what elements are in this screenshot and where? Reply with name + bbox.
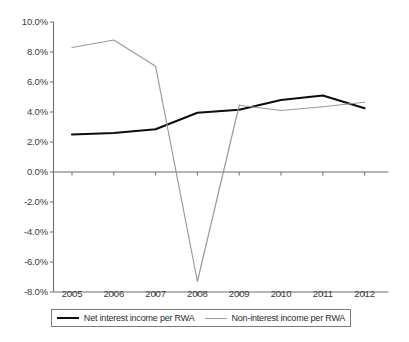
plot-canvas: [0, 0, 409, 305]
y-tick-label-3: 4.0%: [2, 107, 48, 117]
y-tick-label-5: 0.0%: [2, 167, 48, 177]
series-line-net-interest-income: [72, 96, 365, 135]
legend-entry-net-interest-income: Net interest income per RWA: [57, 313, 195, 323]
y-axis-tick-labels: 10.0%8.0%6.0%4.0%2.0%0.0%-2.0%-4.0%-6.0%…: [0, 0, 48, 305]
chart-legend: Net interest income per RWA Non-interest…: [51, 309, 351, 327]
x-tick-label-2009: 2009: [219, 288, 259, 300]
legend-line-icon-non: [205, 318, 227, 319]
y-tick-label-1: 8.0%: [2, 47, 48, 57]
legend-entry-non-interest-income: Non-interest income per RWA: [205, 313, 346, 323]
x-tick-label-2007: 2007: [136, 288, 176, 300]
y-tick-label-2: 6.0%: [2, 77, 48, 87]
plot-area: 10.0%8.0%6.0%4.0%2.0%0.0%-2.0%-4.0%-6.0%…: [0, 0, 409, 305]
y-tick-label-4: 2.0%: [2, 137, 48, 147]
x-tick-label-2005: 2005: [52, 288, 92, 300]
x-tick-label-2008: 2008: [177, 288, 217, 300]
legend-line-icon-net: [57, 317, 79, 319]
y-tick-label-8: -6.0%: [2, 257, 48, 267]
series-line-non-interest-income: [72, 40, 365, 282]
y-tick-label-6: -2.0%: [2, 197, 48, 207]
x-tick-label-2011: 2011: [303, 288, 343, 300]
x-axis-tick-labels: 20052006200720082009201020112012: [0, 288, 409, 304]
y-tick-label-7: -4.0%: [2, 227, 48, 237]
chart-figure: 10.0%8.0%6.0%4.0%2.0%0.0%-2.0%-4.0%-6.0%…: [0, 0, 409, 342]
legend-label-non: Non-interest income per RWA: [232, 313, 346, 323]
y-tick-label-0: 10.0%: [2, 17, 48, 27]
legend-label-net: Net interest income per RWA: [84, 313, 195, 323]
x-tick-label-2012: 2012: [345, 288, 385, 300]
x-tick-label-2010: 2010: [261, 288, 301, 300]
x-tick-label-2006: 2006: [94, 288, 134, 300]
